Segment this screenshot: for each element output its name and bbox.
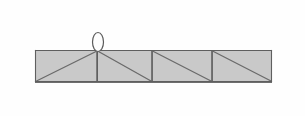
diagram-canvas	[0, 0, 305, 116]
lifting-eye-group	[93, 33, 104, 52]
lifting-eye-icon	[93, 33, 104, 52]
panel-group	[36, 51, 272, 83]
truss-beam-svg	[0, 0, 305, 116]
